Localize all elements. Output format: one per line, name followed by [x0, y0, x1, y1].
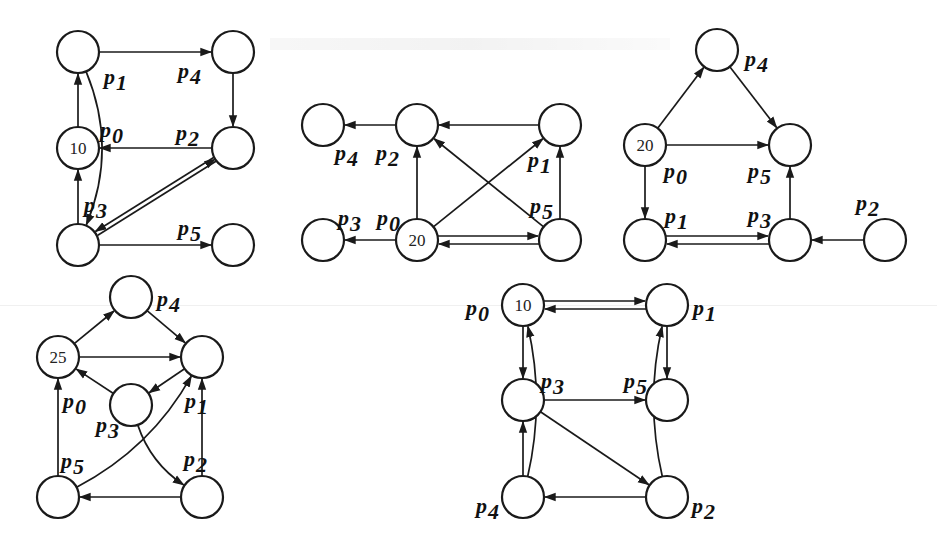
node-label-p3: p3	[82, 192, 107, 223]
node-label-p0: p0	[464, 295, 489, 326]
node-p3: p3	[502, 368, 564, 421]
node-value: 25	[50, 348, 67, 367]
node-p4: p4	[110, 276, 180, 318]
node-circle	[539, 104, 581, 146]
node-circle	[181, 336, 223, 378]
node-p1: p1	[624, 203, 688, 261]
node-label-p5: p5	[59, 448, 84, 479]
node-circle	[696, 29, 738, 71]
node-p3: p3	[746, 202, 811, 261]
graph-panel-e: 10p0p1p3p5p4p2	[464, 284, 716, 524]
node-p2: p2	[646, 476, 715, 524]
node-label-p5: p5	[176, 215, 201, 246]
node-p0: 10p0	[57, 117, 123, 169]
node-p2: p2	[854, 190, 906, 261]
node-label-p4: p4	[155, 286, 180, 317]
node-label-p0: p0	[662, 158, 687, 189]
edge-p1-to-p3	[149, 369, 184, 393]
node-label-p0: p0	[375, 205, 400, 236]
node-label-p1: p1	[102, 64, 127, 95]
node-label-p1: p1	[526, 147, 551, 178]
graph-panel-a: p1p410p0p2p3p5	[57, 31, 254, 266]
node-label-p1: p1	[183, 388, 208, 419]
edge-p3-to-p0	[76, 369, 113, 393]
node-label-p1: p1	[663, 203, 688, 234]
node-p1: p1	[646, 284, 716, 326]
node-p5: p5	[37, 448, 84, 518]
node-label-p4: p4	[474, 493, 499, 524]
node-p0: 25p0	[37, 336, 86, 419]
edge-p3-to-p2	[138, 425, 184, 485]
node-label-p2: p2	[690, 493, 715, 524]
node-p1: p1	[181, 336, 223, 419]
edge-p0-to-p4	[658, 68, 704, 129]
node-circle	[539, 219, 581, 261]
node-circle	[110, 276, 152, 318]
node-circle	[769, 219, 811, 261]
node-p5: p5	[176, 215, 254, 266]
node-label-p5: p5	[622, 368, 647, 399]
graph-panel-d: p425p0p1p3p5p2	[37, 276, 223, 518]
node-circle	[396, 104, 438, 146]
edge-p3-to-p2	[540, 412, 648, 485]
node-p3: p3	[302, 205, 361, 261]
node-label-p2: p2	[854, 190, 879, 221]
node-circle	[502, 379, 544, 421]
node-p0: 20p0	[375, 205, 438, 261]
node-circle	[646, 284, 688, 326]
node-label-p2: p2	[182, 446, 207, 477]
node-value: 20	[637, 136, 654, 155]
node-label-p2: p2	[374, 140, 399, 171]
graph-panel-c: p420p0p5p1p3p2	[624, 29, 906, 261]
node-p1: p1	[526, 104, 581, 178]
node-label-p0: p0	[61, 388, 86, 419]
node-circle	[212, 31, 254, 73]
graph-figure: p1p410p0p2p3p5 p4p2p1p320p0p5 p420p0p5p1…	[0, 0, 937, 547]
node-circle	[57, 31, 99, 73]
node-label-p2: p2	[174, 120, 199, 151]
node-p4: p4	[474, 476, 544, 524]
node-label-p4: p4	[743, 46, 768, 77]
node-label-p3: p3	[746, 202, 771, 233]
edge-p0-to-p4	[74, 311, 114, 344]
node-label-p4: p4	[176, 58, 201, 89]
node-circle	[57, 224, 99, 266]
node-label-p1: p1	[691, 295, 716, 326]
node-circle	[37, 476, 79, 518]
node-label-p4: p4	[333, 140, 358, 171]
node-value: 10	[70, 139, 87, 158]
node-value: 10	[515, 296, 532, 315]
node-circle	[181, 476, 223, 518]
node-p2: p2	[374, 104, 438, 171]
node-circle	[646, 379, 688, 421]
node-circle	[624, 219, 666, 261]
graph-panel-b: p4p2p1p320p0p5	[302, 104, 581, 261]
node-p5: p5	[528, 193, 581, 261]
node-p0: 20p0	[624, 124, 687, 189]
node-p2: p2	[181, 446, 223, 518]
node-p0: 10p0	[464, 284, 544, 326]
node-p4: p4	[302, 104, 358, 171]
node-p3: p3	[94, 384, 152, 443]
node-label-p5: p5	[746, 158, 771, 189]
node-circle	[212, 224, 254, 266]
node-label-p5: p5	[528, 193, 553, 224]
node-circle	[646, 476, 688, 518]
node-circle	[212, 127, 254, 169]
node-circle	[769, 124, 811, 166]
node-p5: p5	[746, 124, 811, 189]
node-circle	[502, 476, 544, 518]
node-circle	[864, 219, 906, 261]
edge-p4-to-p5	[730, 67, 777, 128]
node-p4: p4	[176, 31, 254, 89]
node-value: 20	[409, 231, 426, 250]
